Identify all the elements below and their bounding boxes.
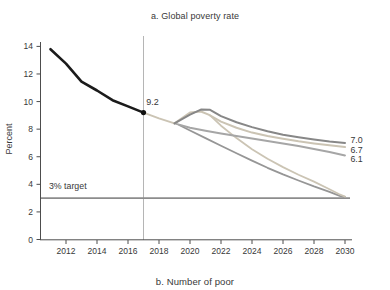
x-tick-label: 2028 bbox=[305, 246, 324, 256]
x-tick-label: 2030 bbox=[336, 246, 355, 256]
end-label-precovid: 6.1 bbox=[350, 154, 362, 164]
historical-endpoint-marker bbox=[141, 110, 146, 115]
x-tick-label: 2016 bbox=[119, 246, 138, 256]
y-axis-title: Percent bbox=[4, 121, 14, 157]
y-tick-label: 10 bbox=[24, 97, 34, 107]
series-covid-downside-line bbox=[175, 110, 346, 143]
series-covid-baseline-line bbox=[144, 112, 346, 148]
x-tick-label: 2018 bbox=[150, 246, 169, 256]
poverty-rate-chart: 0246810121420122014201620182020202220242… bbox=[0, 0, 390, 290]
y-tick-label: 14 bbox=[24, 41, 34, 51]
y-tick-label: 4 bbox=[28, 179, 33, 189]
y-tick-label: 0 bbox=[28, 235, 33, 245]
panel-a-title: a. Global poverty rate bbox=[0, 11, 390, 21]
x-tick-label: 2022 bbox=[212, 246, 231, 256]
y-tick-label: 6 bbox=[28, 152, 33, 162]
y-tick-label: 12 bbox=[24, 69, 34, 79]
y-tick-label: 2 bbox=[28, 207, 33, 217]
end-label-downside: 7.0 bbox=[350, 135, 362, 145]
y-tick-label: 8 bbox=[28, 124, 33, 134]
x-tick-label: 2024 bbox=[243, 246, 262, 256]
forecast-start-value-label: 9.2 bbox=[146, 97, 159, 107]
target-line-label: 3% target bbox=[49, 181, 87, 191]
x-tick-label: 2014 bbox=[88, 246, 107, 256]
series-target-path-covid-line bbox=[210, 115, 345, 196]
x-tick-label: 2012 bbox=[57, 246, 76, 256]
panel-b-caption: b. Number of poor bbox=[0, 276, 390, 287]
series-historical-line bbox=[51, 49, 144, 112]
x-tick-label: 2020 bbox=[181, 246, 200, 256]
x-tick-label: 2026 bbox=[274, 246, 293, 256]
